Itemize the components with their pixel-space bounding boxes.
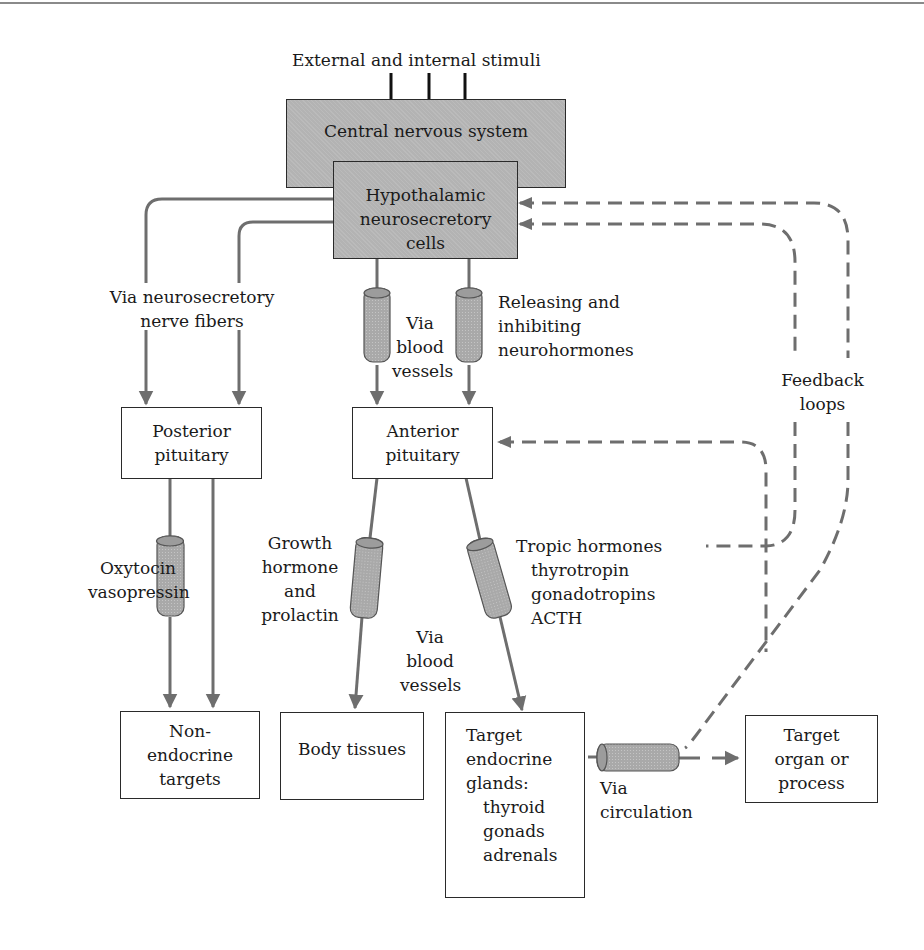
nonendocrine-line-3: targets (159, 767, 221, 791)
posterior-pituitary-box: Posterior pituitary (121, 407, 262, 479)
glands-line-3: glands: (466, 771, 529, 795)
label-line: and (258, 579, 342, 603)
body-tissues-label: Body tissues (298, 737, 406, 761)
anterior-line-1: Anterior (386, 419, 458, 443)
neurosecretory-label: Via neurosecretory nerve fibers (102, 285, 282, 333)
label-line: Via (600, 776, 693, 800)
label-line: Tropic hormones (516, 534, 662, 558)
label-line: hormone (258, 555, 342, 579)
cns-label: Central nervous system (324, 119, 528, 143)
organ-line-2: organ or (774, 747, 848, 771)
label-line: Oxytocin (88, 556, 188, 580)
glands-line-1: Target (466, 723, 522, 747)
label-line: Growth (258, 531, 342, 555)
oxytocin-label: Oxytocin vasopressin (88, 556, 188, 604)
glands-line-5: gonads (466, 819, 545, 843)
label-line: nerve fibers (102, 309, 282, 333)
anterior-pituitary-box: Anterior pituitary (352, 407, 493, 479)
label-line: Via neurosecretory (102, 285, 282, 309)
hypothalamic-line-1: Hypothalamic (365, 183, 485, 207)
hypothalamic-box: Hypothalamic neurosecretory cells (333, 161, 518, 259)
label-line: neurohormones (498, 338, 634, 362)
via-circulation-label: Via circulation (600, 776, 693, 824)
label-line: blood (392, 335, 448, 359)
label-line: Via (400, 625, 460, 649)
label-line: vessels (400, 673, 460, 697)
vessel-cylinder-icon (350, 537, 384, 619)
glands-line-4: thyroid (466, 795, 545, 819)
posterior-line-1: Posterior (152, 419, 231, 443)
nonendocrine-line-2: endocrine (147, 743, 233, 767)
hypothalamic-line-3: cells (406, 231, 445, 255)
body-tissues-box: Body tissues (280, 712, 424, 800)
organ-line-1: Target (783, 723, 839, 747)
label-line: thyrotropin (516, 558, 662, 582)
label-line: inhibiting (498, 314, 634, 338)
via-blood-top-label: Via blood vessels (392, 311, 448, 383)
feedback-loops-label: Feedback loops (775, 368, 870, 416)
dashed-feedback-arrow-icon (500, 203, 848, 748)
label-line: Releasing and (498, 290, 634, 314)
label-line: circulation (600, 800, 693, 824)
label-line: gonadotropins (516, 582, 662, 606)
vessel-cylinder-icon (597, 744, 679, 771)
label-line: vessels (392, 359, 448, 383)
nonendocrine-targets-box: Non- endocrine targets (120, 711, 260, 799)
releasing-label: Releasing and inhibiting neurohormones (498, 290, 634, 362)
growth-hormone-label: Growth hormone and prolactin (258, 531, 342, 627)
stimuli-label: External and internal stimuli (292, 48, 541, 72)
label-line: blood (400, 649, 460, 673)
target-endocrine-glands-box: Target endocrine glands: thyroid gonads … (445, 712, 585, 898)
glands-line-6: adrenals (466, 843, 557, 867)
tropic-hormones-label: Tropic hormones thyrotropin gonadotropin… (516, 534, 662, 630)
label-line: ACTH (516, 606, 662, 630)
label-line: vasopressin (88, 580, 188, 604)
label-line: prolactin (258, 603, 342, 627)
label-line: loops (775, 392, 870, 416)
via-blood-mid-label: Via blood vessels (400, 625, 460, 697)
posterior-line-2: pituitary (154, 443, 228, 467)
hypothalamic-line-2: neurosecretory (360, 207, 492, 231)
target-organ-box: Target organ or process (745, 715, 878, 803)
nonendocrine-line-1: Non- (169, 719, 211, 743)
anterior-line-2: pituitary (385, 443, 459, 467)
vessel-cylinder-icon (466, 536, 514, 620)
organ-line-3: process (778, 771, 844, 795)
label-line: Via (392, 311, 448, 335)
glands-line-2: endocrine (466, 747, 552, 771)
label-line: Feedback (775, 368, 870, 392)
